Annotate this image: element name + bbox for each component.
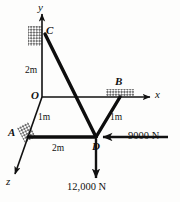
dimension-label-ad: 2m (52, 144, 64, 154)
joint-label-a: A (8, 127, 15, 138)
dimension-label-oc: 2m (25, 66, 37, 76)
force-label-12000n: 12,000 N (67, 182, 106, 193)
force-label-9000n: 9000 N (128, 131, 159, 142)
support-hatch-b (106, 89, 134, 96)
joint-label-c: C (46, 25, 53, 36)
dimension-label-bd: 1m (110, 113, 122, 123)
member-cd (45, 34, 96, 137)
y-axis-label: y (38, 2, 43, 13)
z-axis-label: z (6, 176, 10, 187)
support-hatch-c (28, 26, 42, 46)
dimension-label-oa: 1m (38, 113, 50, 123)
joint-label-d: D (92, 141, 100, 152)
joint-label-b: B (115, 76, 122, 87)
origin-label: O (31, 90, 39, 101)
statics-figure: y x z C B A D O 2m 1m 1m 2m 9000 N 12,00… (0, 0, 180, 202)
x-axis-label: x (155, 89, 160, 100)
figure-canvas (0, 0, 180, 202)
